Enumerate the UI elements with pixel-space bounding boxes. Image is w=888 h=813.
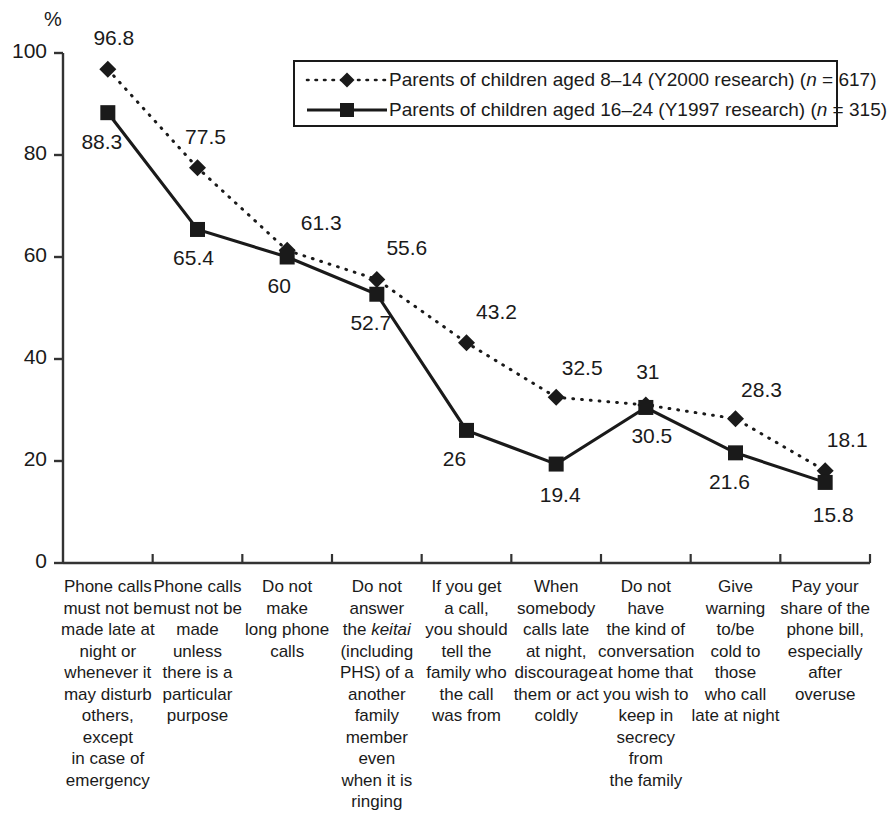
x-axis-category-label: Do notmakelong phonecalls <box>239 576 335 662</box>
data-point-marker <box>99 61 116 78</box>
data-point-marker <box>100 105 115 120</box>
data-value-label: 96.8 <box>74 26 154 50</box>
data-point-marker <box>548 389 565 406</box>
data-value-label: 26 <box>415 447 495 471</box>
series-line-1 <box>108 113 825 483</box>
data-point-marker <box>368 271 385 288</box>
legend: Parents of children aged 8–14 (Y2000 res… <box>293 60 838 127</box>
data-point-marker <box>637 396 654 413</box>
data-point-marker <box>369 287 384 302</box>
y-axis-tick-label: 20 <box>0 447 47 471</box>
x-axis-category-label: Phone callsmust not bemadeunlessthere is… <box>150 576 246 727</box>
data-value-label: 28.3 <box>722 378 802 402</box>
data-value-label: 21.6 <box>690 470 770 494</box>
data-point-marker <box>817 462 834 479</box>
x-axis-category-label: If you geta call,you shouldtell thefamil… <box>419 576 515 727</box>
x-axis-category-label: Phone callsmust not bemade late atnight … <box>60 576 156 791</box>
legend-label-series-0: Parents of children aged 8–14 (Y2000 res… <box>389 69 876 91</box>
data-value-label: 77.5 <box>166 125 246 149</box>
data-value-label: 19.4 <box>520 483 600 507</box>
data-point-marker <box>459 423 474 438</box>
data-point-marker <box>458 334 475 351</box>
y-axis-tick-label: 60 <box>0 243 47 267</box>
data-value-label: 65.4 <box>154 246 234 270</box>
x-axis-category-label: Pay yourshare of thephone bill,especiall… <box>777 576 873 705</box>
data-value-label: 52.7 <box>331 311 411 335</box>
y-axis-tick-label: 40 <box>0 345 47 369</box>
data-value-label: 15.8 <box>793 503 873 527</box>
legend-item-series-1: Parents of children aged 16–24 (Y1997 re… <box>305 94 887 126</box>
data-point-marker <box>549 457 564 472</box>
data-value-label: 18.1 <box>807 428 887 452</box>
legend-swatch-solid-square <box>305 99 389 121</box>
data-value-label: 31 <box>608 360 688 384</box>
legend-swatch-dotted-diamond <box>305 69 389 91</box>
data-point-marker <box>190 222 205 237</box>
data-point-marker <box>638 400 653 415</box>
data-value-label: 43.2 <box>457 300 537 324</box>
legend-label-series-1: Parents of children aged 16–24 (Y1997 re… <box>389 99 887 121</box>
data-point-marker <box>818 475 833 490</box>
data-point-marker <box>189 159 206 176</box>
y-axis-tick-label: 80 <box>0 141 47 165</box>
legend-item-series-0: Parents of children aged 8–14 (Y2000 res… <box>305 64 876 96</box>
x-axis-category-label: Whensomebodycalls lateat night,discourag… <box>508 576 604 727</box>
data-value-label: 55.6 <box>367 236 447 260</box>
x-axis-category-label: Givewarningto/becold tothosewho calllate… <box>688 576 784 727</box>
data-value-label: 60 <box>239 274 319 298</box>
data-point-marker <box>279 242 296 259</box>
x-axis-category-label: Do nothavethe kind ofconversationat home… <box>598 576 694 791</box>
data-point-marker <box>728 445 743 460</box>
y-axis-tick-label: 100 <box>0 39 47 63</box>
y-axis-tick-label: 0 <box>0 549 47 573</box>
data-value-label: 30.5 <box>612 424 692 448</box>
data-point-marker <box>280 250 295 265</box>
data-value-label: 61.3 <box>281 211 361 235</box>
data-point-marker <box>727 410 744 427</box>
x-axis-category-label: Do not answerthe keitai(includingPHS) of… <box>329 576 425 813</box>
data-value-label: 88.3 <box>62 130 142 154</box>
y-axis-unit-label: % <box>44 8 62 31</box>
